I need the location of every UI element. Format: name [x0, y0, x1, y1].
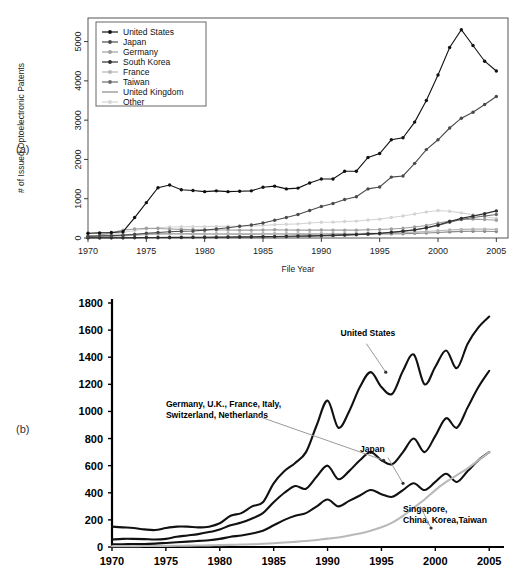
x-tick-label-a: 1995 — [370, 246, 390, 256]
x-tick-label-a: 1985 — [253, 246, 273, 256]
x-tick-label-b: 2005 — [477, 555, 501, 567]
legend-item-taiwan: Taiwan — [123, 77, 150, 87]
annotation-europe-group: Germany, U.K., France, Italy,Switzerland… — [166, 399, 281, 420]
y-tick-label-a: 4000 — [73, 71, 83, 91]
patents-by-region-trend-chart: 0200400600800100012001400160018001970197… — [0, 285, 520, 583]
x-tick-label-b: 1990 — [315, 555, 339, 567]
y-tick-label-b: 200 — [85, 514, 103, 526]
y-tick-label-a: 5000 — [73, 32, 83, 52]
y-tick-label-b: 800 — [85, 433, 103, 445]
y-tick-label-b: 400 — [85, 487, 103, 499]
x-tick-label-b: 2000 — [423, 555, 447, 567]
x-tick-label-a: 2000 — [428, 246, 448, 256]
optoelectronic-patents-by-country-chart: 0100020003000400050001970197519801985199… — [0, 0, 520, 285]
x-tick-label-b: 1970 — [100, 555, 124, 567]
annotation-leaders — [252, 344, 433, 530]
x-tick-label-a: 1975 — [136, 246, 156, 256]
y-axis-title-a: # of Issued Optoelectronic Patents — [16, 63, 26, 193]
y-tick-label-b: 1600 — [79, 324, 103, 336]
legend-item-japan: Japan — [123, 37, 146, 47]
annotation-text: China, Korea,Taiwan — [403, 515, 487, 525]
x-tick-label-b: 1995 — [369, 555, 393, 567]
series-singapore-china-korea-taiwan — [112, 452, 489, 546]
x-tick-label-b: 1985 — [261, 555, 285, 567]
y-tick-label-b: 600 — [85, 460, 103, 472]
x-axis-title-a: File Year — [281, 264, 314, 274]
x-tick-label-a: 1990 — [311, 246, 331, 256]
panel-a-svg: 0100020003000400050001970197519801985199… — [0, 0, 520, 285]
legend-item-france: France — [123, 67, 150, 77]
annotation-text: Singapore, — [403, 504, 447, 514]
legend-item-other: Other — [123, 97, 144, 107]
y-tick-label-a: 0 — [73, 235, 83, 240]
annotation-text: Germany, U.K., France, Italy, — [166, 399, 281, 409]
annotation-text: Switzerland, Netherlands — [166, 410, 268, 420]
panel-b-svg: 0200400600800100012001400160018001970197… — [0, 285, 520, 583]
y-tick-label-a: 2000 — [73, 149, 83, 169]
legend-item-south-korea: South Korea — [123, 57, 171, 67]
x-tick-label-a: 1980 — [195, 246, 215, 256]
x-tick-label-b: 1975 — [154, 555, 178, 567]
series-taiwan — [86, 213, 498, 240]
legend-item-united-kingdom: United Kingdom — [123, 87, 183, 97]
x-tick-label-a: 1970 — [78, 246, 98, 256]
annotation-japan: Japan — [360, 444, 385, 454]
annotation-united-states: United States — [340, 328, 395, 338]
annotation-asia-group: Singapore,China, Korea,Taiwan — [403, 504, 487, 525]
series-united-states — [112, 317, 489, 531]
y-tick-label-b: 1000 — [79, 405, 103, 417]
y-tick-label-b: 1800 — [79, 297, 103, 309]
y-tick-label-a: 3000 — [73, 110, 83, 130]
x-tick-label-b: 1980 — [208, 555, 232, 567]
y-tick-label-b: 0 — [97, 541, 103, 553]
annotation-text: Japan — [360, 444, 385, 454]
x-tick-label-a: 2005 — [486, 246, 506, 256]
y-tick-label-a: 1000 — [73, 189, 83, 209]
legend-item-germany: Germany — [123, 47, 159, 57]
legend-item-united-states: United States — [123, 27, 174, 37]
series-japan — [112, 452, 489, 544]
series-japan — [86, 95, 498, 238]
annotation-text: United States — [340, 328, 395, 338]
panel-a-legend: United StatesJapanGermanySouth KoreaFran… — [96, 22, 206, 107]
y-tick-label-b: 1200 — [79, 378, 103, 390]
y-tick-label-b: 1400 — [79, 351, 103, 363]
